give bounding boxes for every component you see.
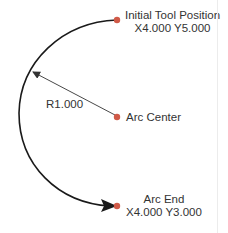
- end-label-title: Arc End: [126, 193, 202, 206]
- arc-diagram: Initial Tool Position X4.000 Y5.000 R1.0…: [0, 0, 228, 233]
- end-label: Arc End X4.000 Y3.000: [126, 193, 202, 219]
- end-label-coords: X4.000 Y3.000: [126, 206, 202, 219]
- start-point-dot: [114, 17, 120, 23]
- center-point-dot: [114, 114, 120, 120]
- center-label: Arc Center: [126, 111, 181, 124]
- end-point-dot: [114, 203, 120, 209]
- start-label-coords: X4.000 Y5.000: [125, 22, 220, 35]
- arc-path: [19, 20, 117, 206]
- divider-line: [217, 0, 218, 233]
- radius-label: R1.000: [46, 98, 83, 111]
- start-label: Initial Tool Position X4.000 Y5.000: [125, 9, 220, 35]
- start-label-title: Initial Tool Position: [125, 9, 220, 22]
